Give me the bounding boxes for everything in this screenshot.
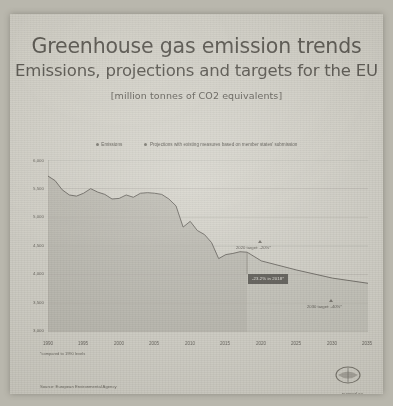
projections-area xyxy=(247,252,368,332)
units-label: [million tonnes of CO2 equivalents] xyxy=(10,90,383,101)
poster-header: Greenhouse gas emission trends Emissions… xyxy=(10,34,383,101)
x-tick-1990: 1990 xyxy=(35,341,61,346)
y-tick-3500: 3,500 xyxy=(22,300,44,305)
x-tick-2020: 2020 xyxy=(248,341,274,346)
target-2020-triangle-icon xyxy=(258,240,262,243)
legend-item-emissions: Emissions xyxy=(96,142,123,147)
website-label: europarl.eu xyxy=(342,391,363,394)
x-tick-2010: 2010 xyxy=(177,341,203,346)
x-tick-2025: 2025 xyxy=(283,341,309,346)
annotation-2030-target: 2030 target: -40%* xyxy=(307,304,342,309)
emissions-area xyxy=(48,176,247,332)
x-tick-2005: 2005 xyxy=(141,341,167,346)
y-tick-4000: 4,000 xyxy=(22,271,44,276)
page-subtitle: Emissions, projections and targets for t… xyxy=(10,61,383,80)
y-tick-5000: 5,000 xyxy=(22,214,44,219)
x-tick-2035: 2035 xyxy=(354,341,380,346)
legend-label-emissions: Emissions xyxy=(101,142,122,147)
legend-item-projections: Projections with existing measures based… xyxy=(144,142,297,147)
y-tick-6000: 6,000 xyxy=(22,158,44,163)
legend-dot-icon xyxy=(144,143,147,146)
poster: Greenhouse gas emission trends Emissions… xyxy=(10,14,383,394)
x-tick-2015: 2015 xyxy=(212,341,238,346)
eu-parliament-logo xyxy=(335,366,361,390)
y-tick-4500: 4,500 xyxy=(22,243,44,248)
chart-legend: Emissions Projections with existing meas… xyxy=(10,142,383,147)
y-tick-5500: 5,500 xyxy=(22,186,44,191)
annotation-2018-change-callout: -23.2% in 2018* xyxy=(248,274,288,284)
legend-label-projections: Projections with existing measures based… xyxy=(150,142,297,147)
target-2030-triangle-icon xyxy=(329,299,333,302)
source-label: Source: European Environmental Agency xyxy=(40,384,117,389)
x-tick-2000: 2000 xyxy=(106,341,132,346)
footnote: *compared to 1990 levels xyxy=(40,351,85,356)
page-title: Greenhouse gas emission trends xyxy=(10,34,383,58)
x-tick-1995: 1995 xyxy=(70,341,96,346)
annotation-2020-target: 2020 target: -20%* xyxy=(236,245,271,250)
x-tick-2030: 2030 xyxy=(319,341,345,346)
legend-dot-icon xyxy=(96,143,99,146)
y-tick-3000: 3,000 xyxy=(22,328,44,333)
